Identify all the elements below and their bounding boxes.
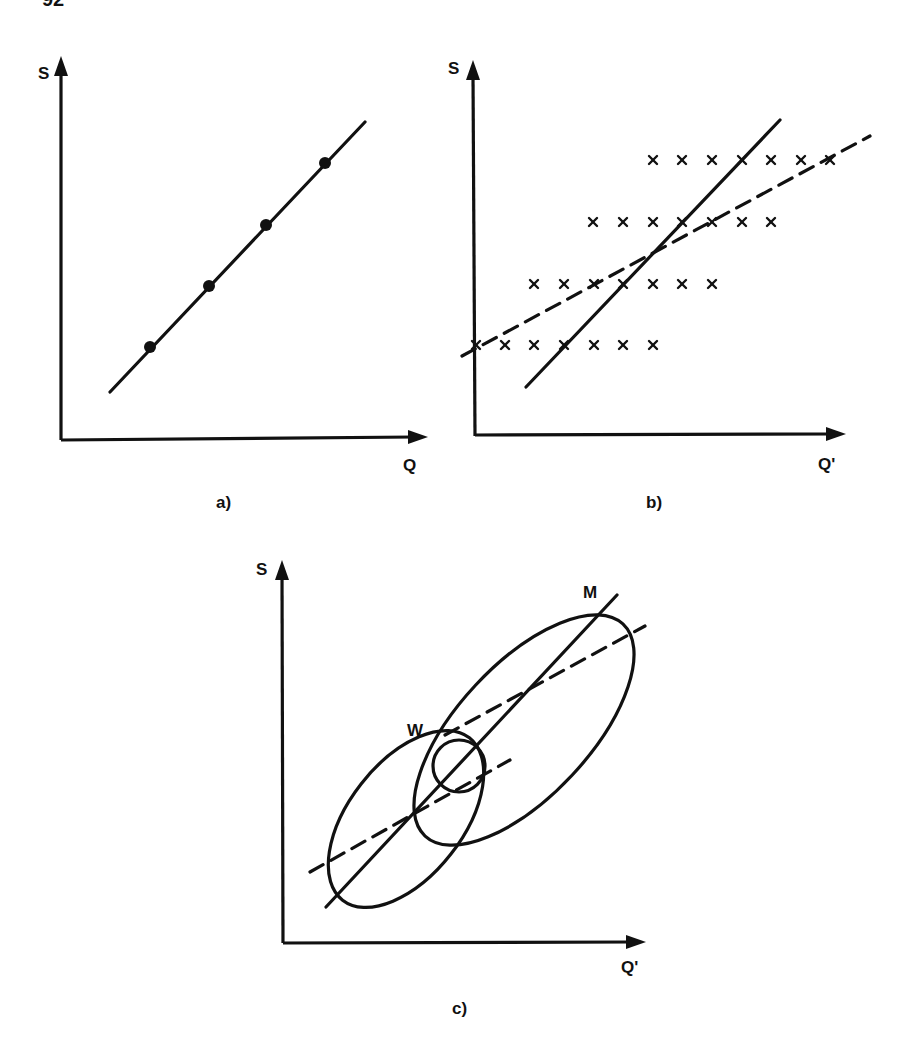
x-marker-icon [678, 156, 686, 164]
x-marker-icon [767, 218, 775, 226]
y-axis-arrow-icon [275, 560, 289, 580]
figure: 92 S Q a) S Q' b) S Q' W M [0, 0, 901, 1041]
x-marker-icon [589, 218, 597, 226]
x-marker-icon [649, 341, 657, 349]
x-marker-icon [767, 156, 775, 164]
group-label-w: W [407, 721, 424, 740]
x-marker-icon [649, 280, 657, 288]
x-marker-icon [649, 218, 657, 226]
page-number: 92 [42, 0, 64, 10]
x-marker-icon [649, 156, 657, 164]
y-axis-label: S [448, 59, 459, 78]
panel-caption-b: b) [646, 493, 662, 512]
y-axis-label: S [256, 560, 267, 579]
panel-b: S Q' b) [448, 59, 870, 512]
x-marker-icon [678, 280, 686, 288]
panel-c: S Q' W M c) [256, 560, 671, 1018]
data-point [319, 157, 331, 169]
x-axis [475, 434, 832, 435]
x-marker-icon [501, 341, 509, 349]
x-axis-label: Q [403, 456, 416, 475]
x-axis-label: Q' [818, 455, 835, 474]
x-axis-label: Q' [621, 958, 638, 977]
x-marker-icon [738, 218, 746, 226]
x-marker-icon [619, 218, 627, 226]
x-axis [283, 942, 632, 943]
x-marker-icon [708, 280, 716, 288]
x-marker-icon [530, 341, 538, 349]
x-marker-icon [619, 341, 627, 349]
data-point [144, 341, 156, 353]
x-axis [61, 437, 414, 440]
y-axis [282, 574, 283, 943]
x-axis-arrow-icon [626, 935, 646, 949]
panel-a: S Q a) [38, 56, 428, 512]
x-axis-arrow-icon [826, 427, 846, 441]
y-axis-arrow-icon [54, 56, 68, 76]
x-axis-arrow-icon [408, 430, 428, 444]
panel-caption-c: c) [452, 999, 467, 1018]
y-axis-arrow-icon [466, 60, 480, 80]
group-label-m: M [583, 583, 597, 602]
x-marker-icon [797, 156, 805, 164]
x-marker-icon [530, 280, 538, 288]
y-axis-label: S [38, 64, 49, 83]
data-point [260, 219, 272, 231]
x-marker-icon [560, 280, 568, 288]
x-marker-icon [708, 156, 716, 164]
dashed-regression-line [462, 136, 870, 356]
y-axis [473, 74, 475, 436]
x-marker-icon [590, 341, 598, 349]
data-point [203, 280, 215, 292]
panel-caption-a: a) [216, 493, 231, 512]
common-regression-line [326, 595, 617, 907]
